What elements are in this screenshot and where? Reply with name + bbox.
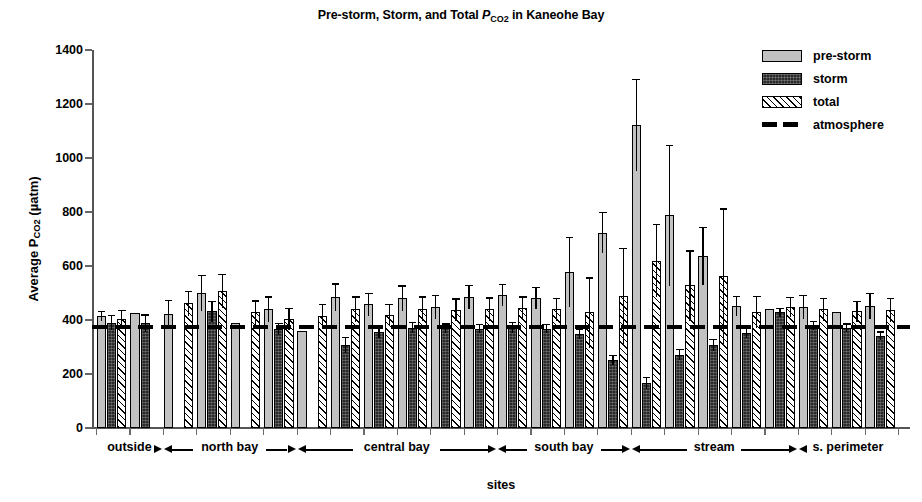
site-bar-group[interactable]	[330, 50, 363, 428]
bar-storm[interactable]	[642, 383, 651, 428]
group-arrow-left	[164, 445, 172, 453]
bar-pre-storm[interactable]	[832, 312, 841, 428]
error-bar-cap	[709, 339, 717, 340]
bar-total[interactable]	[284, 319, 293, 428]
error-bar	[222, 274, 223, 307]
bar-total[interactable]	[117, 319, 126, 428]
site-group-label: outside	[107, 440, 151, 454]
error-bar	[335, 283, 336, 311]
error-bar-cap	[432, 295, 440, 296]
bar-pre-storm[interactable]	[164, 314, 173, 428]
bar-pre-storm[interactable]	[130, 313, 139, 428]
x-tick-mark	[564, 428, 565, 435]
site-bar-group[interactable]	[363, 50, 396, 428]
legend-item-storm[interactable]: storm	[762, 67, 920, 90]
legend-item-total[interactable]: total	[762, 90, 920, 113]
error-bar-cap	[352, 296, 360, 297]
bar-storm[interactable]	[274, 329, 283, 428]
legend-item-atmosphere[interactable]: atmosphere	[762, 113, 920, 136]
error-bar	[856, 301, 857, 323]
legend-item-pre-storm[interactable]: pre-storm	[762, 44, 920, 67]
site-bar-group[interactable]	[397, 50, 430, 428]
site-bar-group[interactable]	[530, 50, 563, 428]
site-bar-group[interactable]	[464, 50, 497, 428]
site-bar-group[interactable]	[597, 50, 630, 428]
error-bar	[803, 295, 804, 319]
error-bar	[489, 297, 490, 321]
bar-storm[interactable]	[508, 328, 517, 428]
bar-pre-storm[interactable]	[331, 297, 340, 428]
bar-pre-storm[interactable]	[297, 331, 306, 428]
error-bar-cap	[609, 355, 617, 356]
bar-storm[interactable]	[374, 332, 383, 428]
bar-total[interactable]	[184, 303, 193, 428]
site-bar-group[interactable]	[129, 50, 162, 428]
bar-storm[interactable]	[809, 325, 818, 428]
bar-total[interactable]	[251, 312, 260, 428]
error-bar	[535, 287, 536, 309]
bar-storm[interactable]	[475, 329, 484, 428]
bar-storm[interactable]	[207, 311, 216, 428]
site-bar-group[interactable]	[96, 50, 129, 428]
bar-pre-storm[interactable]	[197, 293, 206, 428]
bar-storm[interactable]	[141, 323, 150, 428]
site-group-label: north bay	[201, 440, 258, 454]
bar-storm[interactable]	[842, 328, 851, 428]
error-bar	[713, 339, 714, 351]
error-bar	[355, 296, 356, 322]
bar-total[interactable]	[218, 291, 227, 428]
error-bar-cap	[720, 208, 728, 209]
site-bar-group[interactable]	[698, 50, 731, 428]
site-bar-group[interactable]	[230, 50, 263, 428]
error-bar-cap	[733, 296, 741, 297]
bar-pre-storm[interactable]	[498, 295, 507, 428]
bar-pre-storm[interactable]	[598, 233, 607, 428]
site-bar-group[interactable]	[430, 50, 463, 428]
x-tick-mark	[664, 428, 665, 435]
error-bar-cap	[810, 321, 818, 322]
site-bar-group[interactable]	[564, 50, 597, 428]
atmosphere-reference-line	[92, 325, 910, 329]
site-bar-group[interactable]	[731, 50, 764, 428]
bar-pre-storm[interactable]	[231, 323, 240, 428]
bar-pre-storm[interactable]	[464, 297, 473, 428]
bar-pre-storm[interactable]	[398, 298, 407, 428]
error-bar-cap	[686, 250, 694, 251]
x-tick-mark	[631, 428, 632, 435]
site-bar-group[interactable]	[297, 50, 330, 428]
bar-pre-storm[interactable]	[531, 298, 540, 428]
bar-storm[interactable]	[408, 328, 417, 428]
group-rule	[506, 449, 527, 451]
error-bar	[211, 301, 212, 322]
error-bar	[556, 298, 557, 321]
bar-total[interactable]	[385, 315, 394, 428]
bar-storm[interactable]	[608, 360, 617, 428]
site-bar-group[interactable]	[497, 50, 530, 428]
site-bar-group[interactable]	[664, 50, 697, 428]
group-arrow-right	[789, 445, 797, 453]
bar-storm[interactable]	[675, 355, 684, 428]
bar-storm[interactable]	[441, 328, 450, 428]
site-bar-group[interactable]	[631, 50, 664, 428]
bar-storm[interactable]	[341, 345, 350, 428]
bar-storm[interactable]	[775, 312, 784, 428]
bar-storm[interactable]	[709, 345, 718, 428]
error-bar	[145, 314, 146, 332]
bar-total[interactable]	[318, 316, 327, 428]
bar-storm[interactable]	[575, 334, 584, 428]
error-bar-cap	[285, 308, 293, 309]
site-bar-group[interactable]	[263, 50, 296, 428]
bar-pre-storm[interactable]	[364, 304, 373, 428]
legend-label-storm: storm	[813, 72, 848, 86]
bar-storm[interactable]	[876, 336, 885, 428]
error-bar	[402, 285, 403, 311]
bar-total[interactable]	[852, 311, 861, 428]
bar-storm[interactable]	[742, 333, 751, 428]
bar-storm[interactable]	[107, 323, 116, 428]
error-bar-cap	[877, 331, 885, 332]
site-bar-group[interactable]	[163, 50, 196, 428]
bar-storm[interactable]	[542, 329, 551, 428]
site-bar-group[interactable]	[196, 50, 229, 428]
bar-pre-storm[interactable]	[97, 316, 106, 428]
bar-total[interactable]	[752, 312, 761, 428]
